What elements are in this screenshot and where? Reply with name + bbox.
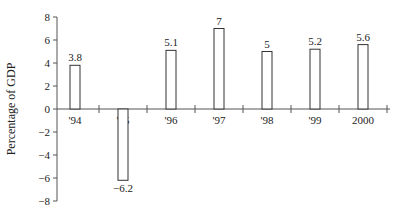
y-axis-label: Percentage of GDP [4, 62, 18, 155]
y-tick-label: 2 [45, 80, 51, 92]
data-label: 5.1 [164, 36, 178, 48]
data-label: 5.2 [308, 35, 322, 47]
bar [70, 65, 80, 109]
x-tick-label: '99 [309, 114, 322, 126]
bar [262, 52, 272, 110]
y-tick-label: 4 [45, 57, 51, 69]
y-tick-label: 8 [45, 11, 51, 23]
bars: 3.8−6.25.1755.25.6 [68, 15, 370, 195]
data-label: −6.2 [113, 182, 133, 194]
bar [358, 45, 368, 109]
data-label: 3.8 [68, 51, 82, 63]
y-tick-label: −6 [38, 172, 50, 184]
x-tick-label: '94 [69, 114, 82, 126]
y-axis: 86420−2−4−6−8 [38, 11, 57, 207]
x-tick-label: 2000 [352, 114, 375, 126]
data-label: 7 [216, 15, 222, 27]
x-tick-label: '97 [213, 114, 226, 126]
bar-chart: 86420−2−4−6−8 '94'95'96'97'98'992000 3.8… [0, 0, 394, 208]
bar [166, 50, 176, 109]
data-label: 5 [264, 38, 270, 50]
y-tick-label: −4 [38, 149, 50, 161]
y-tick-label: −2 [38, 126, 50, 138]
y-tick-label: 6 [45, 34, 51, 46]
bar [118, 109, 128, 180]
data-label: 5.6 [356, 31, 370, 43]
y-tick-label: 0 [45, 103, 51, 115]
bar [214, 29, 224, 110]
x-tick-label: '96 [165, 114, 178, 126]
y-tick-label: −8 [38, 195, 50, 207]
x-tick-label: '98 [261, 114, 274, 126]
bar [310, 49, 320, 109]
